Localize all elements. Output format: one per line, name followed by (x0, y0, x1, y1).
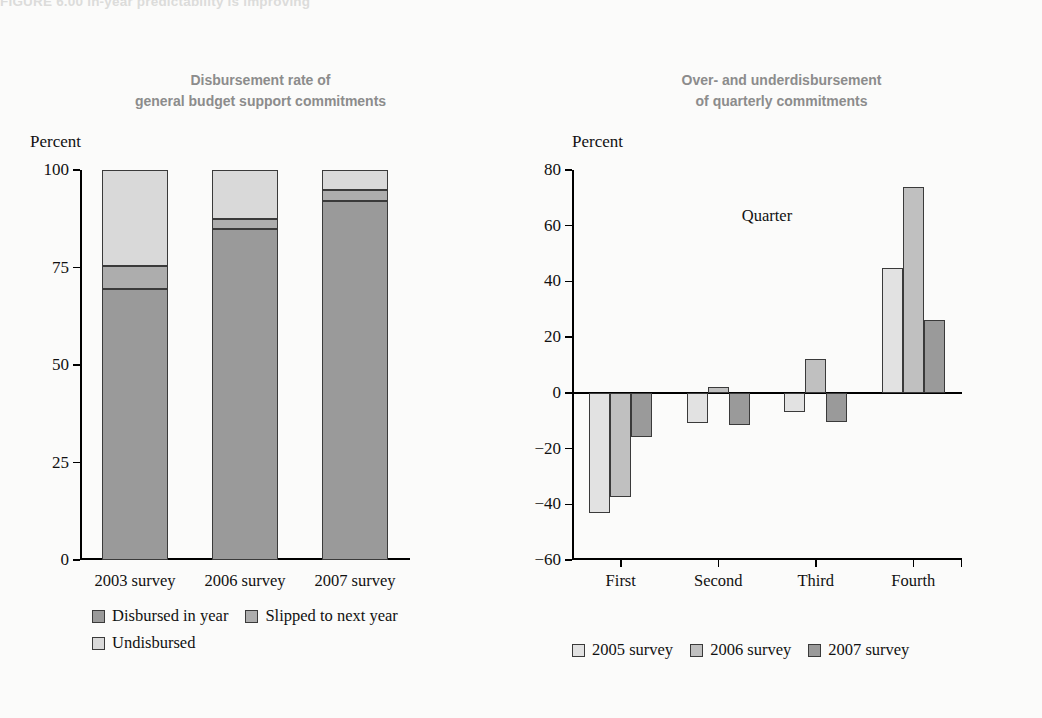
right-legend-swatch-icon (690, 644, 703, 657)
right-bar (729, 393, 750, 425)
right-x-tick (718, 560, 720, 567)
right-legend-item[interactable]: 2007 survey (808, 640, 909, 660)
right-y-tick-label: −20 (534, 438, 561, 458)
left-legend-item[interactable]: Slipped to next year (245, 606, 397, 626)
right-y-tick-label: 0 (553, 382, 562, 402)
right-y-tick (565, 281, 572, 283)
left-y-tick-label: 75 (52, 257, 69, 277)
right-legend-item[interactable]: 2006 survey (690, 640, 791, 660)
right-legend-item[interactable]: 2005 survey (572, 640, 673, 660)
left-bar-segment (322, 190, 388, 202)
left-y-axis-line (80, 170, 82, 560)
right-y-tick-label: 60 (544, 215, 561, 235)
right-y-tick (565, 559, 572, 561)
right-plot-area: −60−40−20020406080 FirstSecondThirdFourt… (572, 170, 962, 560)
left-bar-segment (212, 219, 278, 229)
right-x-axis-title: Quarter (572, 206, 962, 226)
left-legend-item[interactable]: Undisbursed (92, 633, 195, 653)
right-y-tick-label: 40 (544, 271, 561, 291)
left-chart-title-line1: Disbursement rate of (0, 70, 521, 91)
left-legend-label: Disbursed in year (112, 606, 228, 626)
left-chart-title-line2: general budget support commitments (0, 91, 521, 112)
right-bar (589, 393, 610, 513)
right-x-category-label: Third (797, 571, 834, 591)
left-bar-segment (102, 289, 168, 560)
right-y-tick (565, 225, 572, 227)
right-legend-label: 2005 survey (592, 640, 673, 660)
right-legend-label: 2007 survey (828, 640, 909, 660)
right-bar (924, 320, 945, 392)
right-chart-title: Over- and underdisbursement of quarterly… (521, 70, 1042, 112)
right-x-category-label: First (606, 571, 636, 591)
left-chart-panel: Disbursement rate of general budget supp… (0, 0, 521, 718)
left-bar-segment (212, 170, 278, 219)
left-y-tick-label: 100 (44, 160, 70, 180)
right-bar (784, 393, 805, 413)
right-legend-row: 2005 survey2006 survey2007 survey (572, 640, 926, 660)
right-y-tick (565, 169, 572, 171)
left-legend-row: Disbursed in yearSlipped to next year (92, 606, 415, 626)
left-plot-area: 0255075100 2003 survey2006 survey2007 su… (80, 170, 410, 560)
right-bar (882, 268, 903, 393)
left-bar-segment (102, 170, 168, 266)
right-legend-label: 2006 survey (710, 640, 791, 660)
left-bar-segment (322, 170, 388, 190)
left-y-axis-unit: Percent (30, 132, 81, 152)
right-y-tick-label: 20 (544, 327, 561, 347)
right-x-category-label: Second (694, 571, 743, 591)
left-x-category-label: 2006 survey (204, 571, 285, 591)
left-legend-label: Undisbursed (112, 633, 195, 653)
right-x-tick (815, 560, 817, 567)
left-y-tick-label: 25 (52, 452, 69, 472)
left-y-tick (73, 364, 80, 366)
right-y-axis-line (572, 170, 574, 560)
left-legend-swatch-icon (92, 637, 105, 650)
left-legend-swatch-icon (92, 610, 105, 623)
right-y-tick-label: 80 (544, 160, 561, 180)
left-bar-segment (212, 229, 278, 561)
right-x-category-label: Fourth (891, 571, 935, 591)
right-x-axis-end-tick (961, 560, 963, 567)
right-chart-title-line2: of quarterly commitments (521, 91, 1042, 112)
right-bar (805, 359, 826, 392)
right-x-tick (620, 560, 622, 567)
left-y-tick-label: 0 (61, 550, 70, 570)
right-y-tick (565, 336, 572, 338)
right-bar (631, 393, 652, 438)
right-chart-title-line1: Over- and underdisbursement (521, 70, 1042, 91)
left-x-category-label: 2003 survey (94, 571, 175, 591)
right-legend-swatch-icon (808, 644, 821, 657)
left-chart-title: Disbursement rate of general budget supp… (0, 70, 521, 112)
right-bar (826, 393, 847, 422)
right-y-tick-label: −40 (534, 494, 561, 514)
right-y-tick-label: −60 (534, 550, 561, 570)
left-legend-row: Undisbursed (92, 633, 415, 653)
left-bar-segment (102, 266, 168, 289)
left-y-tick (73, 559, 80, 561)
right-bar (687, 393, 708, 424)
left-legend-swatch-icon (245, 610, 258, 623)
right-bar (610, 393, 631, 497)
right-x-tick (913, 560, 915, 567)
right-x-axis-frame (572, 558, 962, 560)
right-chart-legend: 2005 survey2006 survey2007 survey (572, 640, 926, 667)
left-bar-segment (322, 201, 388, 560)
right-bar (708, 387, 729, 393)
left-y-tick (73, 462, 80, 464)
right-y-tick (565, 392, 572, 394)
left-x-category-label: 2007 survey (314, 571, 395, 591)
left-legend-label: Slipped to next year (265, 606, 397, 626)
right-y-tick (565, 448, 572, 450)
left-chart-legend: Disbursed in yearSlipped to next yearUnd… (92, 606, 415, 660)
right-y-tick (565, 504, 572, 506)
right-y-axis-unit: Percent (572, 132, 623, 152)
left-y-tick (73, 267, 80, 269)
left-y-tick-label: 50 (52, 355, 69, 375)
right-legend-swatch-icon (572, 644, 585, 657)
left-legend-item[interactable]: Disbursed in year (92, 606, 228, 626)
left-y-tick (73, 169, 80, 171)
